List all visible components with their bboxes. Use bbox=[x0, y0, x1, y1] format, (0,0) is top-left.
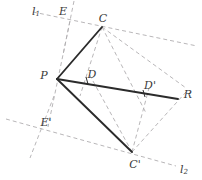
label-point-E: E bbox=[59, 6, 67, 17]
label-l2: l2 bbox=[180, 164, 188, 177]
label-point-D: D bbox=[88, 69, 97, 80]
line-PE-axis bbox=[48, 21, 70, 127]
line-l1 bbox=[33, 12, 197, 46]
line-l2 bbox=[6, 119, 176, 166]
chord-Cprime-D bbox=[88, 72, 132, 152]
label-point-C-prime: C' bbox=[129, 159, 140, 170]
label-point-C: C bbox=[99, 13, 107, 24]
label-point-P: P bbox=[40, 70, 47, 81]
label-point-E-prime: E' bbox=[40, 117, 51, 128]
label-point-R: R bbox=[184, 89, 192, 100]
dashed-construction-lines bbox=[6, 1, 197, 166]
chord-C-Dprime bbox=[102, 27, 146, 113]
label-l1: l1 bbox=[32, 6, 40, 19]
chord-Cprime-Dprime bbox=[132, 88, 149, 152]
geometry-figure: l1 l2 E E' C C' D D' P R bbox=[0, 0, 202, 180]
solid-segments bbox=[57, 27, 178, 152]
label-point-D-prime: D' bbox=[144, 80, 156, 91]
figure-canvas bbox=[0, 0, 202, 180]
